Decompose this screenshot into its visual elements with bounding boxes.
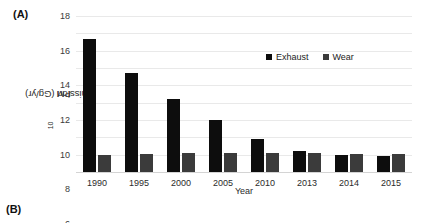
bar-group: 2014 <box>328 16 370 172</box>
y-axis-tick-label: 14 <box>60 80 70 90</box>
chart-legend: ExhaustWear <box>266 52 354 62</box>
legend-item-wear[interactable]: Wear <box>323 52 354 62</box>
legend-swatch-exhaust-icon <box>266 54 272 60</box>
y-axis-tick-label: 10 <box>60 150 70 160</box>
panel-b-label: (B) <box>6 203 21 215</box>
bar-exhaust-2015[interactable] <box>377 156 390 172</box>
bar-exhaust-1990[interactable] <box>83 39 96 172</box>
bar-group: 2000 <box>160 16 202 172</box>
y-axis-tick-label: 8 <box>65 184 70 194</box>
bar-wear-2014[interactable] <box>350 154 363 172</box>
legend-swatch-wear-icon <box>323 54 329 60</box>
legend-label: Wear <box>333 52 354 62</box>
y-axis-tick-label: 6 <box>65 219 70 223</box>
y-axis-label: PM10 emission (Gg/yr) <box>41 16 55 172</box>
bar-group: 2015 <box>370 16 412 172</box>
bar-group: 1990 <box>76 16 118 172</box>
bar-exhaust-2014[interactable] <box>335 155 348 172</box>
bar-wear-1995[interactable] <box>140 154 153 172</box>
bar-group: 2005 <box>202 16 244 172</box>
legend-label: Exhaust <box>276 52 309 62</box>
y-axis-tick-label: 12 <box>60 115 70 125</box>
plot-area: 024681012141618 199019952000200520102013… <box>76 16 412 172</box>
bar-wear-2005[interactable] <box>224 153 237 172</box>
pm10-emission-bar-chart: PM10 emission (Gg/yr) 024681012141618 19… <box>0 0 427 200</box>
bar-wear-2015[interactable] <box>392 154 405 172</box>
bar-wear-1990[interactable] <box>98 155 111 172</box>
y-axis-tick-label: 18 <box>60 11 70 21</box>
bar-group: 1995 <box>118 16 160 172</box>
bar-group: 2013 <box>286 16 328 172</box>
gridline: 0 <box>76 172 412 173</box>
legend-item-exhaust[interactable]: Exhaust <box>266 52 309 62</box>
bar-exhaust-2013[interactable] <box>293 151 306 172</box>
x-axis-label: Year <box>76 186 412 196</box>
bar-wear-2010[interactable] <box>266 153 279 173</box>
bar-exhaust-2005[interactable] <box>209 120 222 172</box>
bar-group: 2010 <box>244 16 286 172</box>
bar-wear-2013[interactable] <box>308 153 321 172</box>
bar-groups: 19901995200020052010201320142015 <box>76 16 412 172</box>
bar-exhaust-1995[interactable] <box>125 73 138 172</box>
bar-exhaust-2000[interactable] <box>167 99 180 172</box>
y-axis-tick-label: 16 <box>60 46 70 56</box>
y-axis-label-subscript: 10 <box>47 121 54 129</box>
bar-exhaust-2010[interactable] <box>251 139 264 172</box>
bar-wear-2000[interactable] <box>182 153 195 172</box>
